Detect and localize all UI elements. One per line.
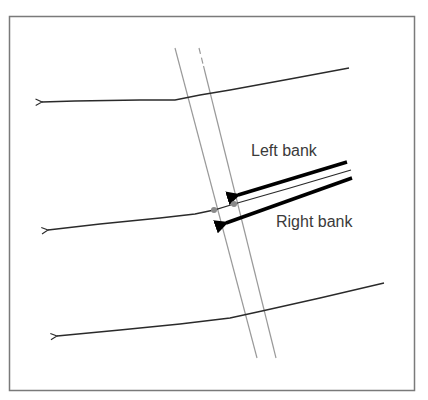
right-bank-point xyxy=(211,207,217,213)
river-bank-diagram xyxy=(0,0,428,400)
left-bank-point xyxy=(231,201,237,207)
left-bank-label: Left bank xyxy=(251,143,317,159)
right-bank-label: Right bank xyxy=(276,214,353,230)
